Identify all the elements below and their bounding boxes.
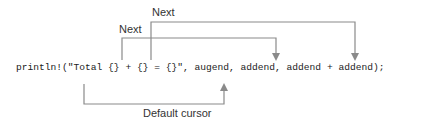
default-cursor-connector (84, 84, 224, 104)
diagram: println!("Total {} + {} = {}", augend, a… (0, 0, 429, 122)
default-cursor-label: Default cursor (143, 107, 211, 119)
next-inner-label: Next (119, 23, 142, 35)
code-line: println!("Total {} + {} = {}", augend, a… (16, 62, 384, 73)
arrow-down-icon (272, 53, 280, 61)
next-outer-connector (151, 22, 355, 60)
arrow-down-icon (351, 53, 359, 61)
next-outer-label: Next (152, 6, 175, 18)
annotation-lines (0, 0, 429, 122)
next-inner-connector (122, 38, 276, 60)
arrow-up-icon (220, 83, 228, 91)
